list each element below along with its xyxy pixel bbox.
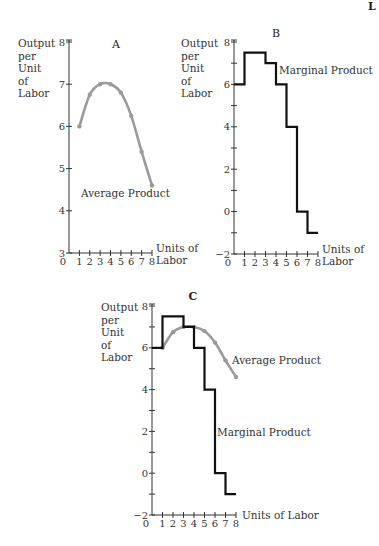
data-point: [139, 150, 143, 154]
y-tick-label: 0: [224, 206, 230, 217]
data-point: [234, 375, 238, 379]
x-tick-label: 7: [304, 257, 310, 268]
svg-text:Output: Output: [18, 37, 56, 49]
y-tick-label: 4: [59, 205, 65, 216]
x-axis-label: Labor: [156, 254, 188, 266]
x-tick-label: 8: [149, 256, 155, 267]
x-tick-label: 5: [201, 518, 207, 529]
data-point: [202, 329, 206, 333]
curve-label-marginal-product: Marginal Product: [217, 426, 312, 438]
x-tick-label: 2: [170, 518, 176, 529]
data-point: [223, 358, 227, 362]
y-tick-label: 4: [142, 384, 148, 395]
y-tick-label: 2: [142, 426, 148, 437]
x-tick-label: 6: [294, 257, 300, 268]
y-axis-label: OutputperUnitofLabor: [181, 37, 219, 99]
corner-text: L: [368, 0, 376, 13]
svg-text:Labor: Labor: [181, 87, 213, 99]
x-tick-label: 5: [283, 257, 289, 268]
curve-label-average-product: Average Product: [80, 187, 171, 199]
curve-label-marginal-product: Marginal Product: [279, 64, 374, 76]
chart-panel-a: AOutputperUnitofLabor345678012345678Unit…: [18, 37, 199, 268]
y-axis-label: OutputperUnitofLabor: [101, 301, 139, 363]
y-axis-label: OutputperUnitofLabor: [18, 37, 56, 99]
svg-text:Output: Output: [101, 301, 139, 313]
x-tick-label: 6: [128, 256, 134, 267]
svg-text:Unit: Unit: [18, 62, 42, 74]
y-tick-label: 8: [224, 37, 230, 48]
svg-text:Labor: Labor: [18, 87, 50, 99]
x-tick-label: 8: [315, 257, 321, 268]
x-tick-label: 0: [143, 518, 149, 529]
panel-title: B: [272, 27, 280, 40]
svg-text:per: per: [18, 50, 37, 62]
y-tick-label: 7: [59, 79, 65, 90]
svg-text:of: of: [18, 75, 29, 87]
x-tick-label: 2: [87, 256, 93, 267]
x-tick-label: 5: [118, 256, 124, 267]
x-tick-label: 3: [97, 256, 103, 267]
y-tick-label: 6: [224, 79, 230, 90]
x-tick-label: 4: [273, 257, 279, 268]
x-tick-label: 0: [225, 257, 231, 268]
x-tick-label: 4: [191, 518, 197, 529]
data-point: [129, 114, 133, 118]
data-point: [108, 82, 112, 86]
x-tick-label: 1: [241, 257, 247, 268]
x-tick-label: 8: [233, 518, 239, 529]
x-axis-label: Units of: [156, 242, 199, 254]
average-product-curve: [79, 83, 152, 185]
x-tick-label: 4: [107, 256, 113, 267]
y-tick-label: 6: [59, 121, 65, 132]
panel-title: A: [111, 38, 121, 51]
svg-text:Unit: Unit: [101, 326, 125, 338]
y-tick-label: 6: [142, 342, 148, 353]
y-tick-label: 5: [59, 163, 65, 174]
svg-text:per: per: [101, 314, 120, 326]
y-tick-label: 0: [142, 468, 148, 479]
data-point: [171, 330, 175, 334]
x-tick-label: 1: [76, 256, 82, 267]
svg-text:of: of: [101, 339, 112, 351]
svg-text:Unit: Unit: [181, 62, 205, 74]
y-tick-label: 4: [224, 121, 230, 132]
panel-title: C: [189, 290, 198, 303]
x-tick-label: 1: [159, 518, 165, 529]
svg-text:Labor: Labor: [101, 351, 133, 363]
data-point: [88, 93, 92, 97]
x-axis-label: Units of Labor: [242, 509, 320, 521]
curve-label-average-product: Average Product: [231, 354, 322, 366]
chart-panel-c: COutputperUnitofLabor−202468012345678Uni…: [101, 290, 322, 529]
y-tick-label: 2: [224, 164, 230, 175]
x-tick-label: 6: [212, 518, 218, 529]
x-tick-label: 3: [262, 257, 268, 268]
chart-panel-b: BOutputperUnitofLabor−202468012345678Uni…: [181, 27, 374, 268]
data-point: [119, 90, 123, 94]
data-point: [213, 340, 217, 344]
x-tick-label: 0: [60, 256, 66, 267]
x-axis-label: Labor: [322, 255, 354, 267]
svg-text:Output: Output: [181, 37, 219, 49]
y-tick-label: 8: [142, 301, 148, 312]
svg-text:of: of: [181, 75, 192, 87]
x-tick-label: 3: [180, 518, 186, 529]
data-point: [98, 82, 102, 86]
data-point: [77, 124, 81, 128]
x-tick-label: 7: [138, 256, 144, 267]
chart-figure: LAOutputperUnitofLabor345678012345678Uni…: [0, 0, 379, 546]
marginal-product-curve: [234, 53, 318, 233]
svg-text:per: per: [181, 50, 200, 62]
y-tick-label: 8: [59, 37, 65, 48]
x-tick-label: 7: [222, 518, 228, 529]
x-axis-label: Units of: [322, 243, 365, 255]
x-tick-label: 2: [252, 257, 258, 268]
